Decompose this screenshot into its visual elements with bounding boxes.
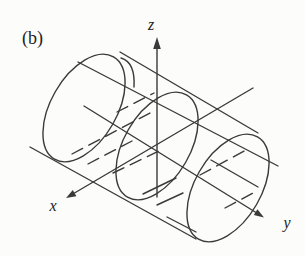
- z-axis-arrowhead-icon: [153, 37, 161, 49]
- lower-ruling-segment: [167, 217, 196, 232]
- x-axis-label: x: [48, 197, 56, 214]
- cylinder-intermediate-arc: [121, 58, 134, 87]
- upper-ruling-line: [78, 62, 278, 166]
- y-axis-label: y: [281, 214, 291, 232]
- transverse-grid-lines: [72, 93, 253, 208]
- inner-ruling-segment: [211, 160, 258, 187]
- hidden-grid-line-left-2: [88, 141, 132, 164]
- z-axis-label: z: [147, 16, 155, 33]
- z-axis: [153, 37, 161, 197]
- y-axis-arrowhead-icon: [254, 209, 264, 217]
- y-axis-line: [84, 106, 256, 213]
- hidden-grid-line-left-1: [72, 113, 150, 154]
- hidden-grid-line-right-1: [200, 149, 248, 175]
- top-ruling-line: [120, 52, 258, 133]
- grid-line-segment-lower: [157, 193, 183, 205]
- x-axis-arrowhead-icon: [66, 190, 76, 198]
- bottom-ruling-line: [30, 147, 196, 239]
- cylinder-axes-drawing: (b) z x y: [0, 0, 305, 256]
- figure-cylinder-diagram: (b) z x y: [0, 0, 305, 256]
- y-axis: [84, 106, 264, 218]
- panel-label: (b): [22, 28, 43, 49]
- hidden-grid-line-left-3: [113, 149, 163, 173]
